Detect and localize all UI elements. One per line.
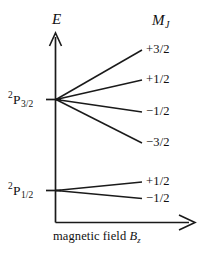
zeeman-splitting-diagram: E MJ 2P3/2 2P1/2 +3/2 +1/2 −1/2 −3/2 +1/… <box>0 0 202 256</box>
x-axis-label-text: magnetic field <box>53 229 129 243</box>
term-symbol-p32: 2P3/2 <box>8 91 33 110</box>
term-symbol-p12: 2P1/2 <box>8 182 33 201</box>
term-symbol-p32-j: 3/2 <box>21 99 33 109</box>
sublevel-label-p32-minus32: −3/2 <box>146 136 170 149</box>
mj-column-header: MJ <box>152 13 169 30</box>
sublevel-line-p12-minus12 <box>56 191 142 199</box>
axes-group <box>50 33 196 230</box>
mj-column-header-subscript: J <box>165 19 169 30</box>
mj-column-header-symbol: M <box>152 12 165 28</box>
sublevel-label-p12-minus12: −1/2 <box>146 192 170 205</box>
x-axis-label: magnetic field Bz <box>53 230 141 244</box>
sublevel-label-p32-plus32: +3/2 <box>146 43 170 56</box>
sublevel-line-p12-plus12 <box>56 182 142 191</box>
term-symbol-p12-letter: P <box>13 183 21 198</box>
sublevel-label-p32-minus12: −1/2 <box>146 105 170 118</box>
sublevel-label-p32-plus12: +1/2 <box>146 73 170 86</box>
y-axis-label: E <box>52 12 61 27</box>
level-p12-group <box>46 182 142 199</box>
sublevel-line-p32-plus32 <box>56 50 142 100</box>
diagram-canvas <box>0 0 202 256</box>
term-symbol-p32-letter: P <box>13 92 21 107</box>
level-p32-group <box>46 50 142 143</box>
sublevel-line-p32-plus12 <box>56 80 142 100</box>
term-symbol-p12-j: 1/2 <box>21 190 33 200</box>
x-axis-label-subscript: z <box>137 235 140 245</box>
sublevel-label-p12-plus12: +1/2 <box>146 175 170 188</box>
